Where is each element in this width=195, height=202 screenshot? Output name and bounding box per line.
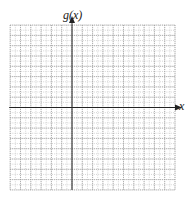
y-axis-label: g(x) — [63, 9, 82, 21]
x-axis-label: x — [179, 100, 184, 112]
coordinate-grid — [0, 0, 195, 202]
